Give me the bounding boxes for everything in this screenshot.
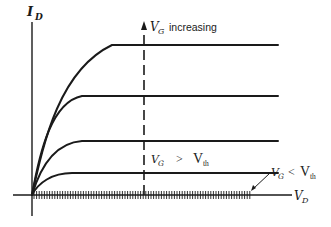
svg-text:th: th <box>310 172 316 181</box>
svg-text:G: G <box>158 27 165 36</box>
curve-2 <box>32 96 278 195</box>
y-axis-label: I D <box>26 4 43 22</box>
below-threshold-label: V G < V th <box>271 164 316 181</box>
svg-text:V: V <box>193 151 203 166</box>
curve-3 <box>32 141 278 195</box>
svg-text:I: I <box>26 4 34 19</box>
svg-text:D: D <box>34 12 43 22</box>
below-threshold-pointer <box>253 173 270 189</box>
svg-text:D: D <box>301 196 309 205</box>
svg-text:G: G <box>278 172 284 181</box>
svg-text:G: G <box>158 159 164 168</box>
svg-text:<: < <box>288 165 295 179</box>
svg-text:increasing: increasing <box>169 21 217 33</box>
arrow-up-icon <box>141 21 147 30</box>
x-axis-label: V D <box>294 189 309 205</box>
svg-text:V: V <box>300 164 310 179</box>
curve-4 <box>32 173 278 195</box>
vg-increasing-label: V G increasing <box>150 20 217 36</box>
arrow-pointer-icon <box>251 185 256 191</box>
svg-text:th: th <box>203 159 209 168</box>
above-threshold-label: V G > V th <box>151 151 209 168</box>
mosfet-iv-diagram: I D V D V <box>0 0 331 227</box>
svg-text:>: > <box>176 152 183 166</box>
